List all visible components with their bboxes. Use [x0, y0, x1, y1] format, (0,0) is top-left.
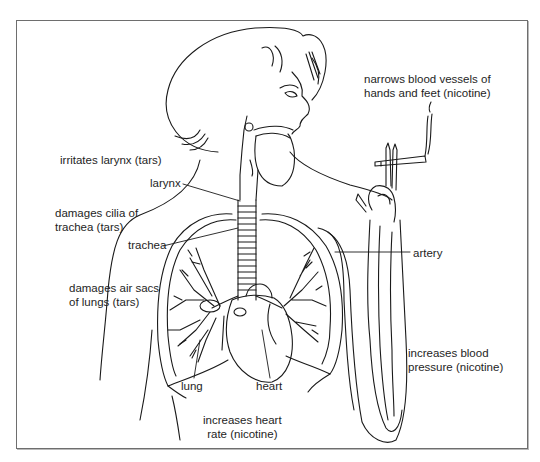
label-larynx: larynx	[150, 176, 181, 190]
label-line-1: increases heart	[203, 413, 282, 427]
label-increases-heart-rate: increases heart rate (nicotine)	[203, 413, 282, 441]
label-line-2: rate (nicotine)	[203, 427, 282, 441]
label-artery: artery	[413, 246, 442, 260]
leader-lines	[163, 184, 410, 378]
label-line-2: hands and feet (nicotine)	[364, 86, 491, 100]
heart-drawing	[226, 284, 292, 382]
label-trachea: trachea	[128, 238, 166, 252]
label-damages-cilia: damages cilia of trachea (tars)	[55, 206, 138, 234]
label-heart: heart	[256, 379, 282, 393]
label-irritates-larynx: irritates larynx (tars)	[60, 153, 162, 167]
label-increases-blood-pressure: increases blood pressure (nicotine)	[408, 346, 503, 374]
label-narrows-blood-vessels: narrows blood vessels of hands and feet …	[364, 72, 491, 100]
cigarette-drawing	[375, 102, 432, 166]
label-line-2: of lungs (tars)	[69, 295, 159, 309]
label-line-1: increases blood	[408, 346, 503, 360]
head-drawing	[100, 27, 392, 380]
label-line-2: trachea (tars)	[55, 220, 138, 234]
label-lung: lung	[181, 379, 203, 393]
right-lung-drawing	[260, 214, 342, 374]
label-line-2: pressure (nicotine)	[408, 360, 503, 374]
label-damages-air-sacs: damages air sacs of lungs (tars)	[69, 281, 159, 309]
airway-drawing	[240, 116, 295, 200]
label-line-1: narrows blood vessels of	[364, 72, 491, 86]
label-line-1: damages air sacs	[69, 281, 159, 295]
label-line-1: damages cilia of	[55, 206, 138, 220]
